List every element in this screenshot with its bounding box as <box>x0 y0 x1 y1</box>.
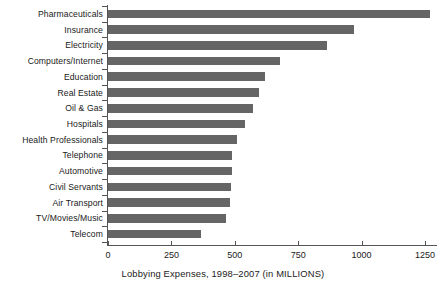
bar-row <box>108 53 425 69</box>
y-axis-tick <box>102 148 107 149</box>
lobbying-expenses-bar-chart: PharmaceuticalsInsuranceElectricityCompu… <box>0 0 446 294</box>
category-label: Electricity <box>0 40 103 50</box>
bar-rows <box>108 6 425 242</box>
bar-row <box>108 116 425 132</box>
bar-row <box>108 226 425 242</box>
category-label: Telecom <box>0 229 103 239</box>
bar <box>108 198 230 207</box>
bar <box>108 57 280 66</box>
x-axis-tick-label: 1250 <box>415 250 435 261</box>
x-axis-tick-label: 250 <box>164 250 179 261</box>
y-axis-tick <box>102 85 107 86</box>
category-label: Pharmaceuticals <box>0 9 103 19</box>
y-axis-tick <box>102 163 107 164</box>
category-label: Education <box>0 72 103 82</box>
bar-row <box>108 6 425 22</box>
bar-row <box>108 179 425 195</box>
category-label: Civil Servants <box>0 182 103 192</box>
category-label: TV/Movies/Music <box>0 213 103 223</box>
y-axis-tick <box>102 69 107 70</box>
bar <box>108 10 430 19</box>
y-axis-tick <box>102 179 107 180</box>
y-axis-tick <box>102 37 107 38</box>
bar-row <box>108 37 425 53</box>
bar-row <box>108 195 425 211</box>
y-axis-tick <box>102 6 107 7</box>
bar <box>108 72 265 81</box>
y-axis-tick <box>102 195 107 196</box>
category-label: Air Transport <box>0 198 103 208</box>
category-label: Health Professionals <box>0 135 103 145</box>
category-axis-labels: PharmaceuticalsInsuranceElectricityCompu… <box>0 6 103 242</box>
y-axis-tick <box>102 211 107 212</box>
x-axis-tick <box>171 241 172 246</box>
bar-row <box>108 100 425 116</box>
bar-row <box>108 148 425 164</box>
bar <box>108 167 232 176</box>
x-axis-line <box>107 245 437 246</box>
bar-row <box>108 22 425 38</box>
category-label: Automotive <box>0 166 103 176</box>
x-axis-title: Lobbying Expenses, 1998–2007 (in MILLION… <box>0 268 446 280</box>
bar <box>108 151 232 160</box>
bar-row <box>108 132 425 148</box>
x-axis-tick <box>362 241 363 246</box>
x-axis-tick-label: 750 <box>291 250 306 261</box>
bar-row <box>108 85 425 101</box>
y-axis-tick <box>102 22 107 23</box>
x-axis-tick <box>108 241 109 246</box>
bar <box>108 230 201 239</box>
x-axis-tick <box>235 241 236 246</box>
y-axis-tick <box>102 226 107 227</box>
category-label: Telephone <box>0 150 103 160</box>
bar-row <box>108 69 425 85</box>
category-label: Real Estate <box>0 88 103 98</box>
category-label: Oil & Gas <box>0 103 103 113</box>
bar-row <box>108 163 425 179</box>
bar <box>108 120 245 129</box>
x-axis-tick <box>425 241 426 246</box>
y-axis-tick <box>102 242 107 243</box>
y-axis-tick <box>102 53 107 54</box>
plot-area <box>108 6 425 242</box>
x-axis-tick-label: 1000 <box>352 250 372 261</box>
bar <box>108 135 237 144</box>
bar <box>108 25 354 34</box>
bar <box>108 104 253 113</box>
bar <box>108 214 226 223</box>
y-axis-tick <box>102 116 107 117</box>
bar <box>108 183 231 192</box>
x-axis-tick <box>298 241 299 246</box>
bar <box>108 41 327 50</box>
bar-row <box>108 211 425 227</box>
y-axis-tick <box>102 132 107 133</box>
x-axis-tick-label: 0 <box>105 250 110 261</box>
category-label: Insurance <box>0 25 103 35</box>
category-label: Computers/Internet <box>0 56 103 66</box>
category-label: Hospitals <box>0 119 103 129</box>
x-axis-tick-label: 500 <box>227 250 242 261</box>
bar <box>108 88 259 97</box>
y-axis-tick <box>102 100 107 101</box>
